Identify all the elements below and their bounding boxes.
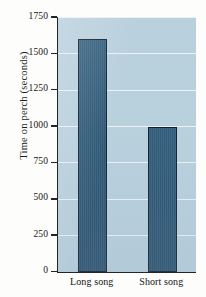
x-axis-category-label: Short song	[121, 276, 201, 287]
bar	[78, 39, 107, 272]
gridline	[58, 17, 196, 18]
bar	[148, 127, 177, 272]
y-axis-tick-label: 1500	[2, 47, 48, 57]
y-axis-tick-label: 250	[2, 229, 48, 239]
plot-area	[57, 17, 196, 273]
y-axis-tick-label: 1250	[2, 83, 48, 93]
x-axis-category-label: Long song	[52, 276, 132, 287]
y-axis-tick-label: 500	[2, 192, 48, 202]
y-axis-title: Time on perch (seconds)	[18, 11, 29, 201]
x-axis-category-labels: Long songShort song	[57, 276, 196, 294]
y-axis-tick-label: 750	[2, 156, 48, 166]
y-axis-tick-label: 1000	[2, 120, 48, 130]
y-axis-tick-label: 0	[2, 265, 48, 275]
y-axis-tick-label: 1750	[2, 11, 48, 21]
bar-chart-figure: Time on perch (seconds) 0250500750100012…	[0, 0, 206, 297]
